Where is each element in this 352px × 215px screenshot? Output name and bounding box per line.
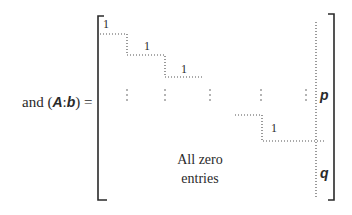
matrix-symbol-A: A <box>52 94 62 110</box>
echelon-staircase-upper <box>100 34 203 77</box>
equation-suffix: ) = <box>75 94 92 110</box>
partition-label-p: p <box>320 88 329 102</box>
vertical-ellipses <box>126 89 307 101</box>
equation-lhs: and (A:b) = <box>22 94 92 111</box>
vector-symbol-b: b <box>67 94 76 110</box>
partition-label-q: q <box>320 166 329 180</box>
left-bracket <box>98 16 107 200</box>
pivot-entry-4: 1 <box>271 122 277 134</box>
pivot-entry-2: 1 <box>144 40 150 52</box>
zero-region-line1: All zero <box>155 150 245 169</box>
pivot-entry-3: 1 <box>181 63 187 75</box>
equation-prefix: and ( <box>22 94 52 110</box>
zero-region-line2: entries <box>155 169 245 188</box>
zero-region-label: All zero entries <box>155 150 245 188</box>
pivot-entry-1: 1 <box>103 18 109 30</box>
echelon-staircase-lower <box>235 115 325 141</box>
